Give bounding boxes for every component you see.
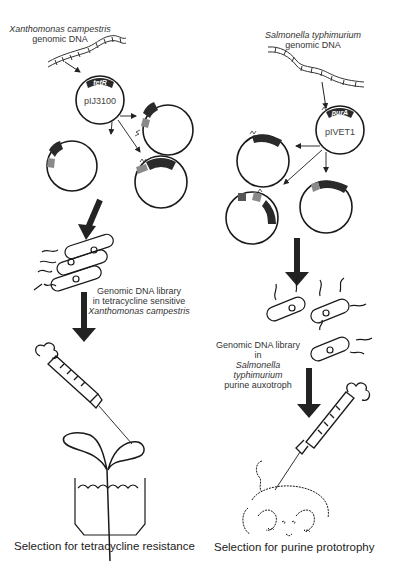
left-library-line-3: Xanthomonas campestris bbox=[88, 306, 190, 316]
right-library-line-2: Salmonella typhimurium bbox=[233, 360, 282, 380]
left-vector-name: pIJ3100 bbox=[84, 96, 116, 106]
syringe-icon bbox=[36, 343, 132, 444]
right-caption: Selection for purine prototrophy bbox=[214, 541, 374, 553]
bacteria-icon bbox=[34, 233, 115, 293]
right-library-line-1: Genomic DNA library in bbox=[216, 340, 300, 360]
plasmid-purA-variant-3 bbox=[226, 189, 278, 244]
mouse-icon bbox=[243, 461, 329, 536]
svg-text:tetR: tetR bbox=[93, 79, 107, 86]
right-source-label: Salmonella typhimurium genomic DNA bbox=[255, 30, 371, 50]
right-library-label: Genomic DNA library in Salmonella typhim… bbox=[212, 340, 304, 390]
plasmid-purA-variant-2 bbox=[300, 181, 352, 233]
left-library-label: Genomic DNA library in tetracycline sens… bbox=[84, 286, 194, 316]
process-arrow-icon bbox=[78, 200, 100, 240]
right-library-line-3: purine auxotroph bbox=[224, 380, 292, 390]
beaker-icon bbox=[75, 478, 145, 535]
syringe-icon bbox=[275, 383, 369, 490]
right-source-suffix: genomic DNA bbox=[285, 40, 341, 50]
left-source-organism: Xanthomonas campestris bbox=[9, 24, 111, 34]
right-vector-name: pIVET1 bbox=[325, 127, 355, 137]
left-source-suffix: genomic DNA bbox=[32, 34, 88, 44]
diagram-canvas: tetR bbox=[0, 0, 397, 561]
plasmid-tetR-variant-2 bbox=[47, 141, 97, 191]
left-source-label: Xanthomonas campestris genomic DNA bbox=[8, 24, 112, 44]
dna-strand-icon bbox=[268, 47, 364, 87]
svg-text:purA: purA bbox=[331, 109, 348, 117]
plasmid-purA-variant-1 bbox=[237, 131, 289, 187]
plasmid-tetR-variant-3 bbox=[135, 156, 187, 208]
left-library-line-1: Genomic DNA library bbox=[97, 286, 181, 296]
left-library-line-2: in tetracycline sensitive bbox=[93, 296, 186, 306]
left-caption: Selection for tetracycline resistance bbox=[14, 540, 195, 552]
plasmid-tetR-variant-1 bbox=[135, 102, 193, 155]
right-source-organism: Salmonella typhimurium bbox=[265, 30, 361, 40]
